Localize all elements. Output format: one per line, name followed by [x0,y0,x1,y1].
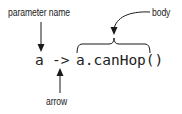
body-brace-icon [77,38,150,53]
down-arrow-icon [38,22,45,52]
annotation-lines [0,0,182,114]
curved-arrow-icon [111,12,151,35]
up-arrow-icon [57,68,64,93]
